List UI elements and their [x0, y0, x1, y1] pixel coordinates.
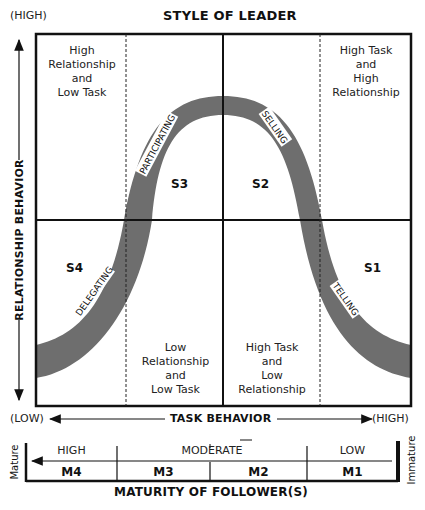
maturity-range-high: HIGH [26, 444, 117, 457]
x-axis-low-label: (LOW) [10, 412, 44, 425]
maturity-range-moderate: MODERATE [117, 444, 307, 457]
x-axis-label: TASK BEHAVIOR [170, 412, 271, 425]
maturity-left-end: Mature [9, 444, 20, 479]
x-axis-high-label: (HIGH) [372, 412, 409, 425]
quadrant-desc-top-right: High Task and High Relationship [322, 44, 410, 100]
y-axis-high-label: (HIGH) [10, 9, 47, 22]
y-axis-label: RELATIONSHIP BEHAVIOR [13, 159, 26, 320]
maturity-range-low: LOW [307, 444, 398, 457]
quadrant-desc-bottom-left: Low Relationship and Low Task [128, 341, 223, 397]
maturity-right-end: Immature [406, 436, 417, 485]
maturity-code-m1: M1 [307, 465, 398, 479]
maturity-title: MATURITY OF FOLLOWER(S) [114, 485, 308, 499]
maturity-code-m3: M3 [117, 465, 210, 479]
style-code-s1: S1 [364, 261, 381, 275]
quadrant-desc-bottom-right: High Task and Low Relationship [224, 341, 320, 397]
diagram-title: STYLE OF LEADER [163, 8, 297, 23]
quadrant-desc-top-left: High Relationship and Low Task [38, 44, 126, 100]
style-code-s3: S3 [171, 177, 188, 191]
style-code-s4: S4 [66, 261, 83, 275]
maturity-code-m4: M4 [26, 465, 117, 479]
style-code-s2: S2 [252, 177, 269, 191]
maturity-code-m2: M2 [210, 465, 307, 479]
